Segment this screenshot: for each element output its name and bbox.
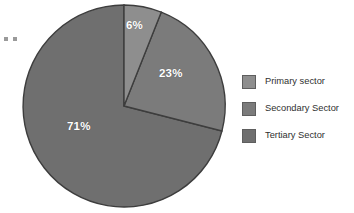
legend-item-secondary-sector[interactable]: Secondary Sector <box>242 95 354 122</box>
legend-label-tertiary: Tertiary Sector <box>265 130 325 141</box>
corner-dot-mark-1 <box>4 37 8 41</box>
legend-swatch-icon-secondary <box>242 102 256 116</box>
corner-dot-mark-2 <box>13 37 17 41</box>
pie-chart-figure: 6% 23% 71% Primary sector Secondary Sect… <box>0 0 354 213</box>
legend-item-tertiary-sector[interactable]: Tertiary Sector <box>242 122 354 149</box>
pie-slice-label-primary: 6% <box>126 19 143 31</box>
legend-label-secondary: Secondary Sector <box>265 103 339 114</box>
legend-label-primary: Primary sector <box>265 76 325 87</box>
screenshot-root: 6% 23% 71% Primary sector Secondary Sect… <box>0 0 354 213</box>
pie-slice-label-tertiary: 71% <box>67 120 91 132</box>
legend-item-primary-sector[interactable]: Primary sector <box>242 68 354 95</box>
legend-swatch-icon-tertiary <box>242 129 256 143</box>
legend-swatch-icon-primary <box>242 75 256 89</box>
pie-slice-label-secondary: 23% <box>159 67 183 79</box>
chart-legend: Primary sector Secondary Sector Tertiary… <box>242 68 354 149</box>
